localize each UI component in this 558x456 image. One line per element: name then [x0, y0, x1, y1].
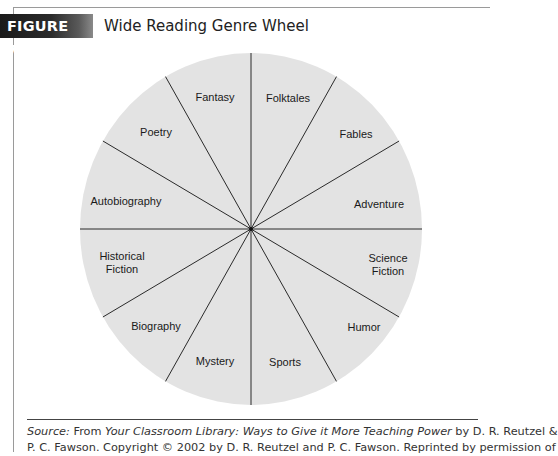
sector-label-folktales: Folktales [266, 92, 311, 104]
source-line-2: P. C. Fawson. Copyright © 2002 by D. R. … [27, 440, 487, 456]
sector-label-humor: Humor [347, 321, 380, 333]
sector-label-fantasy: Fantasy [195, 91, 235, 103]
sector-label-adventure: Adventure [354, 198, 404, 210]
sector-label-sports: Sports [269, 356, 301, 368]
sector-label-autobiography: Autobiography [91, 195, 162, 207]
sector-label-biography: Biography [131, 320, 181, 332]
sector-label-poetry: Poetry [140, 126, 172, 138]
source-from: From [70, 425, 105, 438]
source-book-title: Your Classroom Library: Ways to Give it … [105, 425, 452, 438]
sector-label-mystery: Mystery [196, 355, 235, 367]
source-authors: by D. R. Reutzel & [452, 425, 558, 438]
source-line-1: Source: From Your Classroom Library: Way… [27, 424, 487, 440]
wheel-center-dot [249, 227, 253, 231]
sector-label-historical-fiction: HistoricalFiction [99, 250, 144, 275]
source-citation: Source: From Your Classroom Library: Way… [27, 424, 487, 456]
sector-label-science-fiction: ScienceFiction [368, 252, 407, 277]
source-divider [27, 419, 478, 420]
source-prefix: Source: [27, 425, 70, 438]
sector-label-fables: Fables [339, 128, 373, 140]
